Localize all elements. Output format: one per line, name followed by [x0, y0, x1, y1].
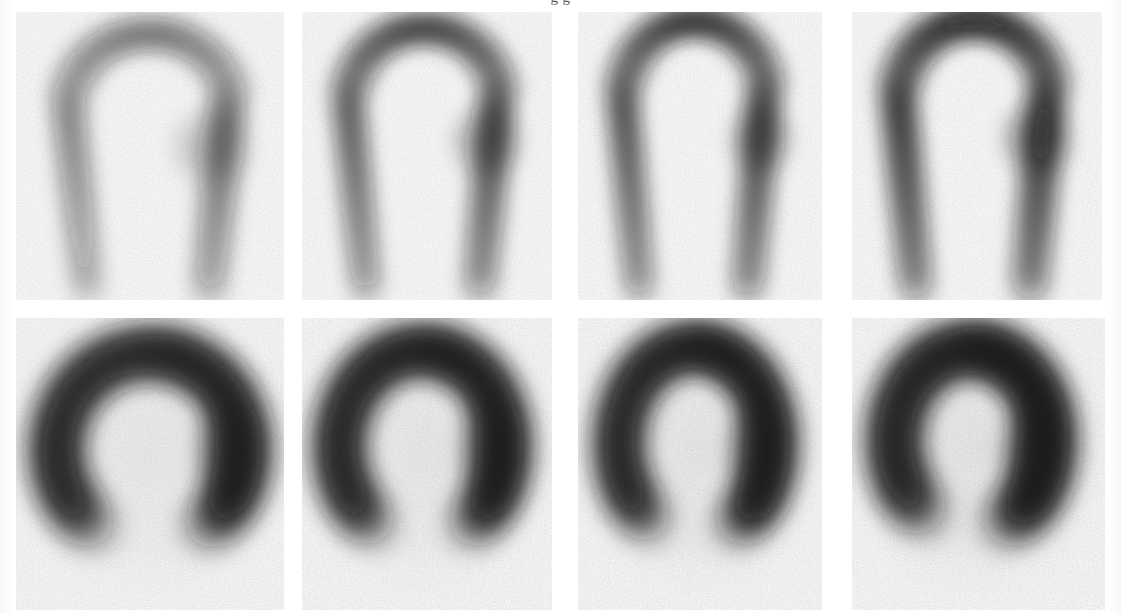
scan-panel-1-1 — [16, 12, 284, 300]
scan-panel-2-3 — [578, 318, 822, 610]
scan-panel-1-3 — [578, 12, 822, 300]
scan-panel-2-4 — [852, 318, 1105, 610]
scan-panel-1-2 — [302, 12, 552, 300]
scan-panel-grid — [0, 0, 1121, 613]
scan-panel-2-2 — [302, 318, 552, 610]
scan-panel-1-4 — [852, 12, 1102, 300]
scan-panel-2-1 — [16, 318, 284, 610]
figure-root: g g — [0, 0, 1121, 613]
